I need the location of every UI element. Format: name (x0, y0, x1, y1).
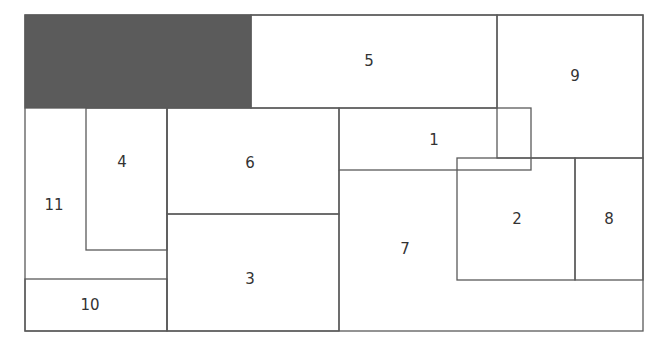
floorplan-diagram: 1 2 3 4 5 6 7 8 9 10 11 (0, 0, 663, 350)
block-label: 1 (429, 131, 439, 149)
block-label: 8 (604, 210, 614, 228)
block-label: 9 (570, 67, 580, 85)
block-label: 3 (245, 270, 255, 288)
block-label: 7 (400, 240, 410, 258)
block-label: 6 (245, 154, 255, 172)
block-4 (86, 108, 167, 250)
block-label: 10 (80, 296, 99, 314)
block-label: 2 (512, 210, 522, 228)
filled-block (25, 15, 251, 108)
block-9 (497, 15, 643, 158)
block-label: 5 (364, 52, 374, 70)
block-label: 4 (117, 153, 127, 171)
block-5 (251, 15, 497, 108)
block-label: 11 (44, 196, 63, 214)
